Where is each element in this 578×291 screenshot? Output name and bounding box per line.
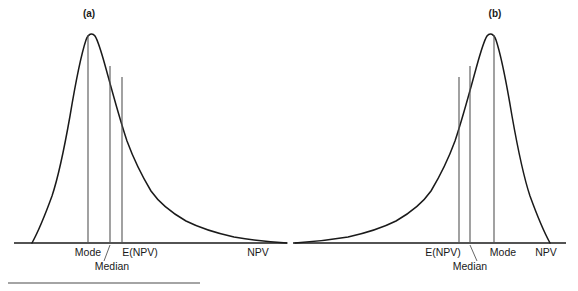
panel-b-axis-label-npv: NPV	[535, 246, 557, 258]
panel-a-mode-label: Mode	[75, 246, 101, 258]
panel-b-enpv-label: E(NPV)	[425, 246, 461, 258]
panel-b-density-curve	[295, 34, 550, 243]
npv-distribution-figure: (a) Mode Median E(NPV) NPV (b)	[0, 0, 578, 291]
figure-canvas: (a) Mode Median E(NPV) NPV (b)	[0, 0, 578, 291]
panel-a-title: (a)	[83, 8, 95, 19]
panel-a-axis-label-npv: NPV	[247, 246, 269, 258]
panel-a-median-leader-line	[104, 245, 110, 261]
panel-b-mode-label: Mode	[490, 246, 516, 258]
panel-a: (a) Mode Median E(NPV) NPV	[14, 8, 287, 272]
panel-a-median-label: Median	[95, 260, 130, 272]
panel-b: (b) E(NPV) Median Mode NPV	[293, 8, 566, 272]
panel-a-density-curve	[32, 34, 287, 243]
panel-b-median-label: Median	[453, 260, 488, 272]
panel-b-median-leader-line	[470, 245, 477, 261]
panel-b-title: (b)	[489, 8, 502, 19]
panel-a-enpv-label: E(NPV)	[122, 246, 158, 258]
